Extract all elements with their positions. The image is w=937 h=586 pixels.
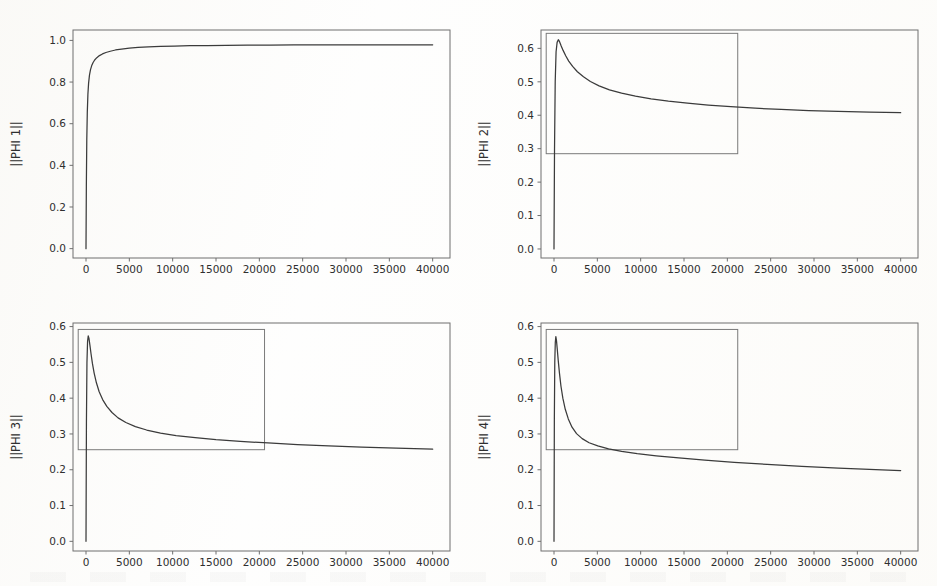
plot-area-panel-1: 0.00.20.40.60.81.00500010000150002000025… bbox=[0, 0, 468, 293]
chart-panel-phi-4: 0.00.10.20.30.40.50.60500010000150002000… bbox=[468, 293, 936, 586]
x-tick-label: 5000 bbox=[116, 263, 143, 275]
x-tick-label: 10000 bbox=[156, 263, 189, 275]
y-tick-label: 0.2 bbox=[517, 176, 534, 188]
y-tick-label: 0.5 bbox=[49, 356, 66, 368]
x-tick-label: 0 bbox=[83, 263, 90, 275]
y-tick-label: 0.3 bbox=[49, 428, 66, 440]
x-tick-label: 25000 bbox=[754, 556, 787, 568]
x-tick-label: 40000 bbox=[884, 263, 917, 275]
chart-panel-phi-2: 0.00.10.20.30.40.50.60500010000150002000… bbox=[468, 0, 936, 293]
x-tick-label: 30000 bbox=[329, 556, 362, 568]
y-tick-label: 0.0 bbox=[517, 535, 534, 547]
x-tick-label: 0 bbox=[551, 263, 558, 275]
plot-area-panel-2: 0.00.10.20.30.40.50.60500010000150002000… bbox=[468, 0, 936, 293]
x-tick-label: 10000 bbox=[156, 556, 189, 568]
plot-area-panel-3: 0.00.10.20.30.40.50.60500010000150002000… bbox=[0, 293, 468, 586]
x-tick-label: 40000 bbox=[416, 556, 449, 568]
x-tick-label: 0 bbox=[83, 556, 90, 568]
y-tick-label: 0.6 bbox=[49, 320, 66, 332]
y-tick-label: 0.5 bbox=[517, 356, 534, 368]
zoom-region-rect bbox=[546, 33, 738, 153]
x-tick-label: 25000 bbox=[286, 556, 319, 568]
y-axis-label: ||PHI 2|| bbox=[477, 121, 491, 166]
y-tick-label: 0.2 bbox=[517, 463, 534, 475]
y-tick-label: 0.5 bbox=[517, 76, 534, 88]
y-tick-label: 0.8 bbox=[49, 76, 66, 88]
y-tick-label: 0.2 bbox=[49, 463, 66, 475]
data-curve bbox=[554, 337, 901, 542]
plot-frame bbox=[541, 30, 918, 258]
x-tick-label: 30000 bbox=[797, 556, 830, 568]
y-tick-label: 0.1 bbox=[49, 499, 66, 511]
x-tick-label: 10000 bbox=[624, 556, 657, 568]
plot-frame bbox=[73, 30, 450, 258]
y-tick-label: 0.4 bbox=[49, 159, 66, 171]
x-tick-label: 35000 bbox=[841, 263, 874, 275]
y-tick-label: 0.2 bbox=[49, 201, 66, 213]
x-tick-label: 20000 bbox=[243, 556, 276, 568]
y-tick-label: 0.4 bbox=[49, 392, 66, 404]
y-tick-label: 0.0 bbox=[517, 243, 534, 255]
x-tick-label: 5000 bbox=[584, 556, 611, 568]
chart-panel-phi-3: 0.00.10.20.30.40.50.60500010000150002000… bbox=[0, 293, 468, 586]
zoom-region-rect bbox=[78, 329, 264, 449]
y-tick-label: 0.6 bbox=[517, 42, 534, 54]
y-axis-label: ||PHI 1|| bbox=[9, 121, 23, 166]
x-tick-label: 5000 bbox=[116, 556, 143, 568]
x-tick-label: 20000 bbox=[711, 263, 744, 275]
x-tick-label: 20000 bbox=[711, 556, 744, 568]
y-axis-label: ||PHI 4|| bbox=[477, 414, 491, 459]
x-tick-label: 10000 bbox=[624, 263, 657, 275]
x-tick-label: 40000 bbox=[884, 556, 917, 568]
x-tick-label: 5000 bbox=[584, 263, 611, 275]
y-axis-label: ||PHI 3|| bbox=[9, 414, 23, 459]
y-tick-label: 0.6 bbox=[49, 117, 66, 129]
y-tick-label: 0.3 bbox=[517, 142, 534, 154]
y-tick-label: 0.4 bbox=[517, 392, 534, 404]
data-curve bbox=[86, 336, 433, 541]
x-tick-label: 30000 bbox=[797, 263, 830, 275]
x-tick-label: 15000 bbox=[199, 556, 232, 568]
x-tick-label: 30000 bbox=[329, 263, 362, 275]
x-tick-label: 15000 bbox=[667, 263, 700, 275]
data-curve bbox=[86, 45, 433, 249]
x-tick-label: 15000 bbox=[667, 556, 700, 568]
plot-frame bbox=[541, 323, 918, 551]
figure-page: 0.00.20.40.60.81.00500010000150002000025… bbox=[0, 0, 937, 586]
x-tick-label: 0 bbox=[551, 556, 558, 568]
x-tick-label: 25000 bbox=[286, 263, 319, 275]
data-curve bbox=[554, 40, 901, 249]
plot-frame bbox=[73, 323, 450, 551]
x-tick-label: 25000 bbox=[754, 263, 787, 275]
x-tick-label: 35000 bbox=[373, 556, 406, 568]
chart-panel-phi-1: 0.00.20.40.60.81.00500010000150002000025… bbox=[0, 0, 468, 293]
y-tick-label: 0.4 bbox=[517, 109, 534, 121]
y-tick-label: 0.0 bbox=[49, 535, 66, 547]
x-tick-label: 40000 bbox=[416, 263, 449, 275]
x-tick-label: 15000 bbox=[199, 263, 232, 275]
y-tick-label: 0.1 bbox=[517, 499, 534, 511]
y-tick-label: 0.1 bbox=[517, 209, 534, 221]
y-tick-label: 1.0 bbox=[49, 34, 66, 46]
x-tick-label: 35000 bbox=[373, 263, 406, 275]
x-tick-label: 35000 bbox=[841, 556, 874, 568]
y-tick-label: 0.6 bbox=[517, 320, 534, 332]
y-tick-label: 0.0 bbox=[49, 242, 66, 254]
plot-area-panel-4: 0.00.10.20.30.40.50.60500010000150002000… bbox=[468, 293, 936, 586]
y-tick-label: 0.3 bbox=[517, 428, 534, 440]
x-tick-label: 20000 bbox=[243, 263, 276, 275]
